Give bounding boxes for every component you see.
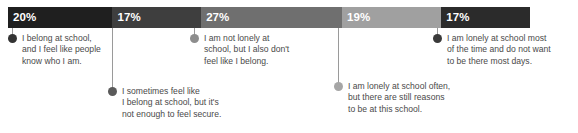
- callout-4-leader: [338, 28, 339, 84]
- callout-3-dot: [190, 34, 199, 43]
- callout-1-line-2: and I feel like people: [22, 44, 101, 55]
- bar-segment-1-value: 20%: [13, 12, 36, 24]
- callout-2-leader: [112, 28, 113, 89]
- callout-5-line-2: of the time and do not want: [447, 44, 551, 55]
- callout-4-line-3: to be at this school.: [348, 104, 450, 115]
- bar-segment-1[interactable]: 20%: [8, 7, 112, 28]
- bar-segment-2[interactable]: 17%: [112, 7, 201, 28]
- callout-5-dot: [433, 34, 442, 43]
- bar-segment-3-value: 27%: [206, 12, 229, 24]
- callout-4-line-1: I am lonely at school often,: [348, 81, 450, 92]
- callout-1-dot: [8, 34, 17, 43]
- callout-5-line-1: I am lonely at school most: [447, 33, 551, 44]
- stacked-bar: 20% 17% 27% 19% 17%: [8, 7, 530, 28]
- callout-5-line-3: to be there most days.: [447, 56, 551, 67]
- callout-2-dot: [108, 87, 117, 96]
- callout-4-text: I am lonely at school often, but there a…: [348, 81, 450, 115]
- bar-segment-4[interactable]: 19%: [342, 7, 441, 28]
- bar-segment-5[interactable]: 17%: [441, 7, 530, 28]
- stacked-bar-chart: 20% 17% 27% 19% 17% I belong at school, …: [0, 0, 578, 133]
- callout-4-dot: [334, 82, 343, 91]
- callout-2-line-3: not enough to feel secure.: [122, 109, 221, 120]
- callout-2-text: I sometimes feel like I belong at school…: [122, 86, 221, 120]
- bar-segment-2-value: 17%: [117, 12, 140, 24]
- bar-segment-5-value: 17%: [446, 12, 469, 24]
- callout-3-line-2: school, but I also don't: [204, 44, 289, 55]
- callout-4-line-2: but there are still reasons: [348, 92, 450, 103]
- callout-5-text: I am lonely at school most of the time a…: [447, 33, 551, 67]
- callout-2-line-2: I belong at school, but it's: [122, 97, 221, 108]
- bar-segment-4-value: 19%: [347, 12, 370, 24]
- bar-segment-3[interactable]: 27%: [201, 7, 342, 28]
- callout-1-text: I belong at school, and I feel like peop…: [22, 33, 101, 67]
- callout-3-line-3: feel like I belong.: [204, 56, 289, 67]
- callout-1-line-3: know who I am.: [22, 56, 101, 67]
- callout-3-text: I am not lonely at school, but I also do…: [204, 33, 289, 67]
- callout-3-line-1: I am not lonely at: [204, 33, 289, 44]
- callout-1-line-1: I belong at school,: [22, 33, 101, 44]
- callout-2-line-1: I sometimes feel like: [122, 86, 221, 97]
